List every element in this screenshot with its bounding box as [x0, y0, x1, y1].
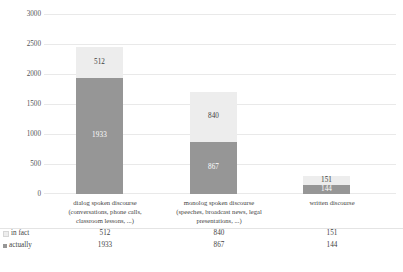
legend-item-in-fact[interactable]: in fact	[3, 230, 29, 237]
bar-group-written-discourse[interactable]: 151 144	[303, 176, 350, 194]
bar-segment-actually[interactable]: 1933	[76, 78, 123, 194]
category-line: (speeches, broadcast news, legal	[150, 207, 288, 216]
table-divider	[0, 228, 403, 229]
legend-swatch-icon	[3, 231, 9, 237]
y-tick-2500: 2500	[1, 41, 41, 48]
bar-value-label-actually: 1933	[92, 132, 107, 139]
table-cell-in-fact-written: 151	[263, 230, 401, 237]
stacked-bar-chart: 3000 2500 2000 1500 1000 500 0 512 1933	[0, 0, 403, 272]
legend-swatch-icon	[3, 244, 7, 248]
category-line: presentations, ...)	[150, 216, 288, 225]
category-label-written-discourse: written discourse	[263, 198, 401, 207]
bar-segment-in-fact[interactable]: 840	[190, 92, 237, 142]
bar-value-label-actually: 867	[208, 164, 219, 171]
bar-series-container: 512 1933 840 867 151	[44, 14, 396, 194]
bar-value-label-in-fact: 840	[208, 113, 219, 120]
y-tick-1000: 1000	[1, 131, 41, 138]
y-tick-500: 500	[1, 161, 41, 168]
bar-group-monolog-spoken-discourse[interactable]: 840 867	[190, 92, 237, 194]
plot-area: 512 1933 840 867 151	[44, 14, 396, 194]
table-row: in fact 512 840 151	[0, 230, 403, 242]
y-tick-3000: 3000	[1, 11, 41, 18]
bar-value-label-in-fact: 151	[321, 177, 332, 184]
bar-value-label-in-fact: 512	[94, 59, 105, 66]
category-label-row: dialog spoken discourse (conversations, …	[0, 198, 403, 228]
table-row: actually 1933 867 144	[0, 242, 403, 254]
table-cell-actually-written: 144	[263, 242, 401, 249]
category-line: written discourse	[263, 198, 401, 207]
bar-segment-actually[interactable]: 867	[190, 142, 237, 194]
bar-value-label-actually: 144	[321, 186, 332, 193]
y-tick-1500: 1500	[1, 101, 41, 108]
bar-segment-in-fact[interactable]: 512	[76, 47, 123, 78]
bar-group-dialog-spoken-discourse[interactable]: 512 1933	[76, 47, 123, 194]
legend-item-actually[interactable]: actually	[3, 242, 32, 249]
bar-segment-in-fact[interactable]: 151	[303, 176, 350, 185]
category-and-data-table: dialog spoken discourse (conversations, …	[0, 196, 403, 272]
y-tick-2000: 2000	[1, 71, 41, 78]
legend-label-in-fact: in fact	[11, 230, 29, 237]
bar-segment-actually[interactable]: 144	[303, 185, 350, 194]
legend-label-actually: actually	[9, 242, 32, 249]
